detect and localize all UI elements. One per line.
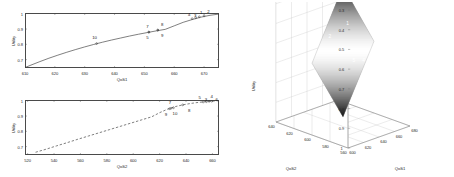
z-tick-label: 0.8 <box>339 106 345 111</box>
y-tick-label-3d: 620 <box>365 144 372 149</box>
x-tick-label: 640 <box>111 71 118 76</box>
y-tick-label-3d: 660 <box>396 133 403 138</box>
y-tick-label: 0.9 <box>12 27 23 32</box>
x-tick-label-3d: 560 <box>340 150 347 155</box>
z-tick-label: 0.4 <box>339 27 345 32</box>
x-axis-label-3d: QoS2 <box>286 166 297 171</box>
plot-curve-top <box>25 13 219 68</box>
y-axis-label-3d: QoS1 <box>395 166 406 171</box>
data-point-label: 10 <box>92 35 97 40</box>
data-point-label: 1 <box>200 10 202 15</box>
data-point-label: 4 <box>188 12 190 17</box>
chart-utility-surface-3d: 1235467 10.90.80.70.60.50.40.35605806006… <box>236 2 454 177</box>
x-tick-label: 560 <box>77 158 84 163</box>
y-tick-label: 0.7 <box>12 57 23 62</box>
x-tick-label: 650 <box>141 71 148 76</box>
data-point-label: 9 <box>161 33 163 38</box>
surface-point-label: 6 <box>370 57 373 62</box>
y-axis-label-top: Utility <box>11 36 16 46</box>
data-point-label: 8 <box>161 21 163 26</box>
z-axis-label-3d: Utility <box>251 81 256 91</box>
z-tick-label: 0.3 <box>339 8 345 13</box>
data-point-label: 5 <box>146 35 148 40</box>
data-point-label: 2 <box>207 9 209 14</box>
x-tick-label: 620 <box>52 71 59 76</box>
surface-point-label: 2 <box>328 33 331 38</box>
data-point-label: 10 <box>173 111 178 116</box>
x-tick-label: 640 <box>183 158 190 163</box>
x-axis-label-top: QoS1 <box>117 77 128 82</box>
x-tick-label-3d: 600 <box>304 137 311 142</box>
data-point-label: 3 <box>194 12 196 17</box>
y-tick-label: 1 <box>12 98 23 103</box>
data-point-label: 6 <box>216 97 218 102</box>
x-tick-label: 630 <box>81 71 88 76</box>
x-tick-label: 540 <box>51 158 58 163</box>
surface-point-label: 5 <box>352 57 355 62</box>
y-tick-label: 0.7 <box>12 144 23 149</box>
x-tick-label-3d: 640 <box>268 124 275 129</box>
data-point-label: 7 <box>146 23 148 28</box>
y-tick-label-3d: 640 <box>380 139 387 144</box>
x-tick-label-3d: 580 <box>322 143 329 148</box>
x-tick-label: 580 <box>104 158 111 163</box>
data-point-label: 7 <box>169 100 171 105</box>
y-axis-label-bottom: Utility <box>11 123 16 133</box>
x-tick-label: 610 <box>22 71 29 76</box>
x-tick-label: 660 <box>171 71 178 76</box>
z-tick-label: 0.9 <box>339 126 345 131</box>
x-tick-label: 520 <box>24 158 31 163</box>
x-tick-label: 660 <box>209 158 216 163</box>
x-tick-label-3d: 620 <box>286 130 293 135</box>
y-tick-label-3d: 600 <box>349 150 356 155</box>
y-tick-label-3d: 680 <box>411 128 418 133</box>
y-tick-label: 1 <box>12 11 23 16</box>
z-tick-label: 0.6 <box>339 67 345 72</box>
surface-point-label: 4 <box>362 57 365 62</box>
x-tick-label: 600 <box>130 158 137 163</box>
data-point-label: 3 <box>205 96 207 101</box>
chart-utility-vs-qos1 <box>25 13 219 68</box>
data-point-label: 5 <box>198 95 200 100</box>
x-axis-label-bottom: QoS2 <box>117 164 128 169</box>
data-point-label: 9 <box>165 112 167 117</box>
x-tick-label: 670 <box>201 71 208 76</box>
z-tick-label: 0.7 <box>339 86 345 91</box>
y-tick-label: 0.9 <box>12 114 23 119</box>
x-tick-label: 620 <box>156 158 163 163</box>
figure-canvas: 6106206306406506606700.70.80.91 QoS1 Uti… <box>0 0 454 177</box>
data-point-label: 4 <box>210 94 212 99</box>
z-tick-label: 0.5 <box>339 47 345 52</box>
surface-point-label: 1 <box>346 21 349 26</box>
data-point-label: 8 <box>188 108 190 113</box>
surface-point-label: 7 <box>379 55 382 60</box>
